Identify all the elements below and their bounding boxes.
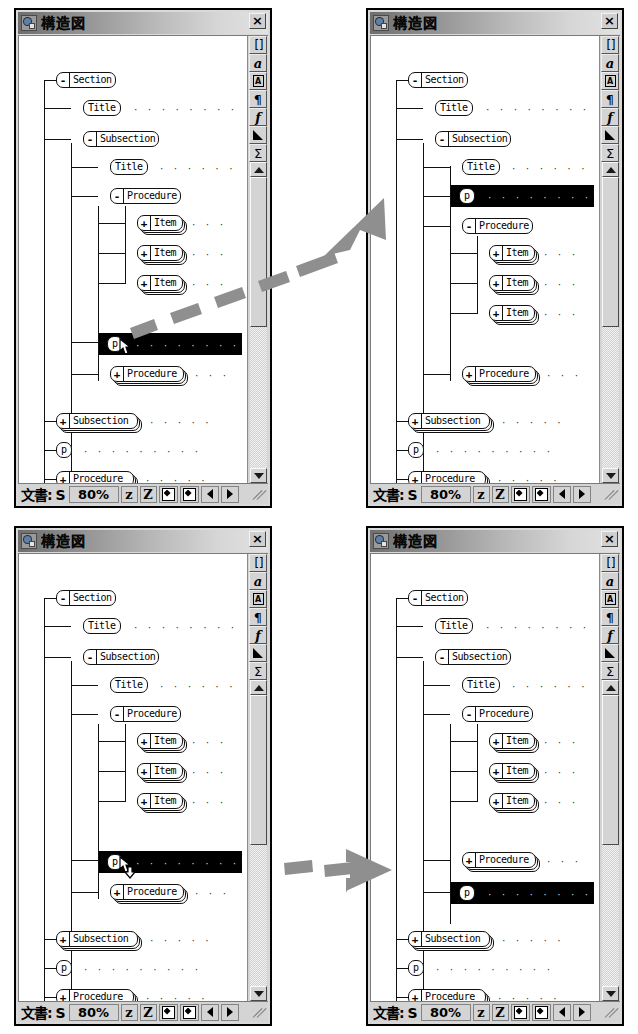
pilcrow-button[interactable]: ¶ <box>601 90 619 108</box>
expander-collapse-icon[interactable]: - <box>84 650 97 664</box>
scroll-up-button[interactable] <box>250 162 267 177</box>
tree-node-subtitle[interactable]: Title <box>462 677 500 693</box>
zoom-in-button[interactable]: Z <box>492 486 509 503</box>
tree-node-item-2[interactable]: + Item <box>489 763 535 779</box>
item-node[interactable]: + Item <box>489 733 535 749</box>
selected-row-p[interactable]: p · · · · · · · · · · · · · · · · · · F <box>451 882 594 904</box>
function-f-button[interactable]: f <box>601 626 619 644</box>
prev-button[interactable] <box>201 1004 219 1021</box>
procedure-node[interactable]: + Procedure <box>462 366 536 382</box>
pilcrow-button[interactable]: ¶ <box>601 608 619 626</box>
zoom-in-button[interactable]: Z <box>492 1004 509 1021</box>
zoom-out-button[interactable]: z <box>121 1004 138 1021</box>
tree-node-procedure[interactable]: - Procedure <box>462 218 533 234</box>
next-button[interactable] <box>573 486 591 503</box>
expander-expand-icon[interactable]: + <box>409 472 422 483</box>
expander-expand-icon[interactable]: + <box>463 367 476 381</box>
tree-node-subsection[interactable]: - Subsection <box>435 131 511 147</box>
subsection-node[interactable]: + Subsection <box>408 413 490 429</box>
tree-node-title[interactable]: Title <box>435 100 473 116</box>
zoom-level[interactable]: 80% <box>421 1004 471 1021</box>
title-bar[interactable]: 構造図 × <box>18 530 268 552</box>
scroll-thumb[interactable] <box>602 177 619 327</box>
fit-width-button[interactable] <box>180 486 199 503</box>
expander-collapse-icon[interactable]: - <box>463 707 476 721</box>
item-node[interactable]: + Item <box>137 733 183 749</box>
tree-node-item-2[interactable]: + Item <box>489 275 535 291</box>
tree-node-subsection-collapsed[interactable]: + Subsection <box>408 931 490 947</box>
expander-expand-icon[interactable]: + <box>490 734 503 748</box>
procedure-node[interactable]: + Procedure <box>110 884 184 900</box>
zoom-in-button[interactable]: Z <box>140 486 157 503</box>
boxed-a-button[interactable]: A <box>249 590 267 608</box>
subsection-node[interactable]: + Subsection <box>56 413 138 429</box>
expander-collapse-icon[interactable]: - <box>463 219 476 233</box>
item-node[interactable]: + Item <box>137 763 183 779</box>
zoom-in-button[interactable]: Z <box>140 1004 157 1021</box>
sigma-button[interactable]: Σ <box>249 662 267 680</box>
expander-expand-icon[interactable]: + <box>111 367 124 381</box>
vertical-scrollbar[interactable] <box>250 680 267 1001</box>
expander-expand-icon[interactable]: + <box>111 885 124 899</box>
scroll-thumb[interactable] <box>250 695 267 845</box>
sigma-button[interactable]: Σ <box>249 144 267 162</box>
zoom-out-button[interactable]: z <box>473 1004 490 1021</box>
tree-node-section[interactable]: - Section <box>56 72 116 88</box>
tree-node-procedure-bottom[interactable]: + Procedure <box>408 471 486 483</box>
vertical-scrollbar[interactable] <box>602 680 619 1001</box>
tree-node-subsection-collapsed[interactable]: + Subsection <box>56 931 138 947</box>
tree-node-subtitle[interactable]: Title <box>462 159 500 175</box>
item-node[interactable]: + Item <box>137 793 183 809</box>
expander-expand-icon[interactable]: + <box>57 472 70 483</box>
tree-node-item-1[interactable]: + Item <box>489 245 535 261</box>
tree-node-section[interactable]: - Section <box>56 590 116 606</box>
scroll-up-button[interactable] <box>250 680 267 695</box>
procedure-node[interactable]: + Procedure <box>408 989 486 1001</box>
procedure-node[interactable]: + Procedure <box>56 471 134 483</box>
zoom-level[interactable]: 80% <box>69 1004 119 1021</box>
subsection-node[interactable]: + Subsection <box>408 931 490 947</box>
window-bottom-right[interactable]: 構造図 × <box>366 526 624 1026</box>
tree-node-item-3[interactable]: + Item <box>489 793 535 809</box>
subsection-node[interactable]: + Subsection <box>56 931 138 947</box>
expander-expand-icon[interactable]: + <box>490 306 503 320</box>
tree-node-p[interactable]: p <box>459 885 475 901</box>
expander-expand-icon[interactable]: + <box>463 853 476 867</box>
tree-node-p-second[interactable]: p <box>56 442 72 458</box>
sigma-button[interactable]: Σ <box>601 662 619 680</box>
expander-expand-icon[interactable]: + <box>57 990 70 1001</box>
tree-node-subsection-collapsed[interactable]: + Subsection <box>408 413 490 429</box>
sigma-button[interactable]: Σ <box>601 144 619 162</box>
fit-page-button[interactable] <box>511 486 530 503</box>
fit-page-button[interactable] <box>159 1004 178 1021</box>
tree-node-item-3[interactable]: + Item <box>489 305 535 321</box>
expander-expand-icon[interactable]: + <box>57 414 70 428</box>
tree-node-subsection[interactable]: - Subsection <box>83 131 159 147</box>
scroll-down-button[interactable] <box>602 986 619 1001</box>
scroll-up-button[interactable] <box>602 162 619 177</box>
structure-canvas[interactable]: - Section Title · · · · · · · · · · · · … <box>371 554 594 1001</box>
fit-width-button[interactable] <box>532 486 551 503</box>
tree-node-procedure-collapsed[interactable]: + Procedure <box>462 852 536 868</box>
zoom-out-button[interactable]: z <box>473 486 490 503</box>
fit-page-button[interactable] <box>511 1004 530 1021</box>
expander-collapse-icon[interactable]: - <box>84 132 97 146</box>
prev-button[interactable] <box>553 1004 571 1021</box>
procedure-node[interactable]: + Procedure <box>56 989 134 1001</box>
tree-node-procedure-collapsed[interactable]: + Procedure <box>110 366 184 382</box>
boxed-a-button[interactable]: A <box>249 72 267 90</box>
close-button[interactable]: × <box>601 13 618 29</box>
resize-grip[interactable] <box>603 1004 619 1020</box>
resize-grip[interactable] <box>603 486 619 502</box>
tree-node-item-1[interactable]: + Item <box>489 733 535 749</box>
expander-expand-icon[interactable]: + <box>138 734 151 748</box>
pilcrow-button[interactable]: ¶ <box>249 608 267 626</box>
fit-width-button[interactable] <box>180 1004 199 1021</box>
vertical-scrollbar[interactable] <box>602 162 619 483</box>
title-bar[interactable]: 構造図 × <box>370 530 620 552</box>
next-button[interactable] <box>573 1004 591 1021</box>
tree-node-procedure-bottom[interactable]: + Procedure <box>56 471 134 483</box>
function-f-button[interactable]: f <box>601 108 619 126</box>
brackets-button[interactable]: [] <box>601 554 619 572</box>
tree-node-item-1[interactable]: + Item <box>137 733 183 749</box>
